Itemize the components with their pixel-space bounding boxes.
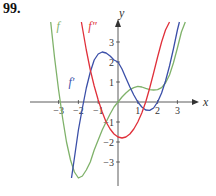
- label-f-prime: f′: [69, 75, 75, 89]
- y-tick-label: −2: [103, 137, 114, 148]
- y-axis-arrow-icon: [115, 19, 121, 27]
- curve-f-prime: [72, 22, 180, 178]
- label-f: f: [57, 19, 62, 33]
- x-axis-label: x: [202, 95, 209, 109]
- x-tick-label: 2: [155, 105, 160, 116]
- x-axis-arrow-icon: [192, 99, 199, 105]
- curve-labels: ff″f′: [57, 19, 98, 89]
- y-tick-label: −3: [103, 157, 114, 168]
- x-tick-label: 3: [175, 105, 180, 116]
- label-f-double-prime: f″: [88, 19, 97, 33]
- y-tick-label: 3: [109, 37, 114, 48]
- y-axis-label: y: [118, 6, 125, 20]
- x-tick-label: 1: [135, 105, 140, 116]
- y-tick-label: 1: [109, 77, 114, 88]
- curve-f-prime-prime: [81, 22, 169, 138]
- function-graph: xy−3−2−1123321−1−2−3 ff″f′: [0, 0, 216, 196]
- axes: xy−3−2−1123321−1−2−3: [30, 6, 209, 186]
